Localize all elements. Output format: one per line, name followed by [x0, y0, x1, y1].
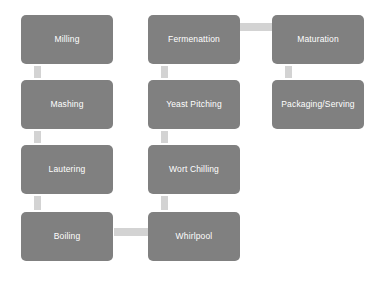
- flow-node-label: Maturation: [297, 35, 339, 44]
- connector-lautering-boiling: [34, 196, 41, 210]
- flow-node-label: Fermenattion: [168, 35, 220, 44]
- flow-node-maturation[interactable]: Maturation: [272, 15, 364, 64]
- flow-node-mashing[interactable]: Mashing: [21, 80, 113, 129]
- flow-node-fermentation[interactable]: Fermenattion: [148, 15, 240, 64]
- connector-maturation-packaging: [285, 66, 292, 78]
- flow-node-label: Yeast Pitching: [166, 100, 222, 109]
- connector-fermentation-maturation: [240, 23, 272, 31]
- flow-node-yeast-pitching[interactable]: Yeast Pitching: [148, 80, 240, 129]
- flow-node-packaging-serving[interactable]: Packaging/Serving: [272, 80, 364, 129]
- connector-boiling-whirlpool: [114, 228, 148, 236]
- flow-node-label: Milling: [54, 35, 79, 44]
- flow-node-label: Whirlpool: [176, 232, 213, 241]
- connector-milling-mashing: [34, 66, 41, 78]
- flow-node-label: Wort Chilling: [169, 165, 219, 174]
- flow-node-wort-chilling[interactable]: Wort Chilling: [148, 145, 240, 194]
- flow-node-label: Boiling: [54, 232, 81, 241]
- connector-mashing-lautering: [34, 131, 41, 143]
- connector-wort-chilling-yeast-pitching: [161, 131, 168, 143]
- flow-node-milling[interactable]: Milling: [21, 15, 113, 64]
- flow-node-lautering[interactable]: Lautering: [21, 145, 113, 194]
- flow-node-label: Packaging/Serving: [281, 100, 354, 109]
- flow-node-label: Mashing: [50, 100, 83, 109]
- connector-yeast-pitching-fermentation: [161, 66, 168, 78]
- flow-node-label: Lautering: [49, 165, 86, 174]
- flow-node-boiling[interactable]: Boiling: [21, 212, 113, 261]
- flow-node-whirlpool[interactable]: Whirlpool: [148, 212, 240, 261]
- connector-whirlpool-wort-chilling: [161, 196, 168, 210]
- brewing-process-flowchart: Milling Mashing Lautering Boiling Fermen…: [0, 0, 380, 289]
